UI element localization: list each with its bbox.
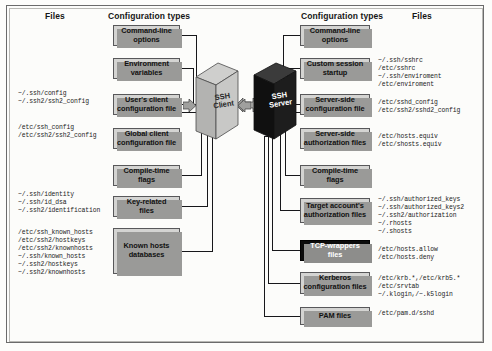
connector-server-5b (285, 175, 300, 176)
ssh-server-node[interactable]: SSH Server (246, 63, 298, 145)
client-config-compile-time-flags[interactable]: Compile-time flags (113, 165, 180, 186)
file-line: ~/.ssh/id_dsa (18, 199, 67, 206)
connector-server-7v (272, 128, 273, 250)
file-line: ~/.shosts (378, 228, 412, 235)
file-line: ~/.ssh2/identification (18, 207, 100, 214)
header-client-files: Files (45, 11, 65, 21)
server-config-custom-session-startup[interactable]: Custom session startup (300, 58, 370, 79)
file-line: /etc/ssh2/hostkeys (18, 237, 85, 244)
file-line: /etc/sshd_config (378, 99, 438, 106)
client-config-command-line-options-line2: options (133, 35, 159, 44)
file-line: ~/.ssh2/hostkeys (18, 261, 78, 268)
file-line: ~/.ssh2/knownhosts (18, 269, 85, 276)
server-config-tcp-wrappers-files-line2: files (328, 250, 343, 259)
file-line: ~/.ssh/identity (18, 191, 74, 198)
file-line: ~/.ssh2/authorization (378, 212, 456, 219)
server-files-server-side-authorization: /etc/hosts.equiv/etc/shosts.equiv (378, 133, 442, 149)
file-line: /etc/shosts.equiv (378, 141, 442, 148)
client-config-users-client-configuration-file[interactable]: User's client configuration file (113, 94, 180, 115)
file-line: /etc/hosts.allow (378, 246, 438, 253)
file-line: /etc/ssh2/ssh2_config (18, 132, 96, 139)
client-files-users-client-config: ~/.ssh/config~/.ssh2/ssh2_config (18, 90, 89, 106)
header-server-files: Files (412, 11, 432, 21)
file-line: ~/.ssh/authorized_keys (378, 196, 460, 203)
file-line: ~/.ssh/config (18, 90, 67, 97)
ssh-client-node[interactable]: SSH Client (196, 63, 246, 145)
client-config-key-related-files-line2: files (139, 206, 154, 215)
connector-server-9v (264, 136, 265, 316)
server-files-target-account-authorization: ~/.ssh/authorized_keys~/.ssh/authorized_… (378, 196, 464, 236)
file-line: /etc/ssh_known_hosts (18, 229, 93, 236)
server-files-server-side-config: /etc/sshd_config/etc/ssh2/sshd2_config (378, 99, 460, 115)
file-line: /etc/ssh_config (18, 124, 74, 131)
client-outgoing-arrow (183, 99, 196, 112)
connector-client-1 (180, 35, 197, 36)
connector-server-6b (280, 210, 300, 211)
server-config-server-side-authorization-files-line2: authorization files (304, 138, 366, 147)
file-line: /etc/srvtab (378, 283, 419, 290)
server-config-pam-files-line1: PAM files (319, 311, 351, 320)
file-line: /etc/ssh2/sshd2_config (378, 107, 460, 114)
connector-client-2 (180, 68, 194, 69)
header-server-configuration-types: Configuration types (301, 11, 383, 21)
connector-server-8v (268, 132, 269, 283)
client-config-users-client-configuration-file-line2: configuration file (117, 104, 176, 113)
server-files-custom-session-startup: ~/.ssh/sshrc/etc/sshrc~/.ssh/enviroment/… (378, 57, 442, 89)
file-line: ~/.ssh/enviroment (378, 73, 442, 80)
figure-canvas: Files Configuration types Configuration … (0, 0, 492, 351)
file-line: ~/.rhosts (378, 220, 412, 227)
connector-client-6 (180, 206, 208, 207)
header-client-configuration-types: Configuration types (108, 11, 190, 21)
server-files-pam: /etc/pam.d/sshd (378, 310, 434, 318)
file-line: /etc/sshrc (378, 65, 415, 72)
server-config-target-accounts-authorization-files[interactable]: Target account's authorization files (300, 198, 370, 223)
client-config-key-related-files[interactable]: Key-related files (113, 196, 180, 217)
server-config-command-line-options[interactable]: Command-line options (300, 25, 370, 46)
connector-client-7 (180, 251, 213, 252)
connector-server-7b (272, 250, 300, 251)
file-line: ~/.ssh/known_hosts (18, 253, 85, 260)
server-config-server-side-configuration-file[interactable]: Server-side configuration file (300, 94, 370, 115)
client-config-compile-time-flags-line2: flags (138, 175, 155, 184)
server-config-kerberos-configuration-files-line2: configuration files (303, 282, 366, 291)
server-config-custom-session-startup-line2: startup (323, 68, 348, 77)
connector-server-1 (283, 35, 300, 36)
connector-server-8b (268, 283, 300, 284)
client-config-global-client-configuration-file[interactable]: Global client configuration file (113, 128, 180, 149)
client-files-known-hosts: /etc/ssh_known_hosts/etc/ssh2/hostkeys/e… (18, 229, 93, 278)
file-line: /etc/ssh2/knownhosts (18, 245, 93, 252)
file-line: /etc/enviroment (378, 81, 434, 88)
client-config-known-hosts-databases[interactable]: Known hosts databases (113, 228, 180, 274)
server-files-kerberos: /etc/krb.*,/etc/krb5.*/etc/srvtab~/.klog… (378, 275, 460, 299)
server-config-target-accounts-authorization-files-line2: authorization files (304, 210, 366, 219)
file-line: ~/.ssh/authorized_keys2 (378, 204, 464, 211)
server-config-server-side-configuration-file-line2: configuration file (305, 104, 364, 113)
server-config-kerberos-configuration-files[interactable]: Kerberos configuration files (300, 272, 370, 294)
client-config-known-hosts-databases-line2: databases (129, 250, 165, 259)
client-config-environment-variables-line2: variables (131, 68, 163, 77)
file-line: /etc/krb.*,/etc/krb5.* (378, 275, 460, 282)
connector-client-5 (180, 175, 202, 176)
file-line: ~/.ssh/sshrc (378, 57, 423, 64)
client-config-environment-variables[interactable]: Environment variables (113, 58, 180, 79)
file-line: /etc/hosts.deny (378, 254, 434, 261)
file-line: /etc/hosts.equiv (378, 133, 438, 140)
server-config-command-line-options-line2: options (322, 35, 348, 44)
client-files-global-client-config: /etc/ssh_config/etc/ssh2/ssh2_config (18, 124, 96, 140)
server-config-server-side-authorization-files[interactable]: Server-side authorization files (300, 128, 370, 149)
file-line: ~/.ssh2/ssh2_config (18, 98, 89, 105)
server-config-compile-time-flags-line2: flags (327, 175, 344, 184)
server-config-compile-time-flags[interactable]: Compile-time flags (300, 165, 370, 186)
server-config-pam-files[interactable]: PAM files (300, 307, 370, 325)
connector-server-9b (264, 316, 300, 317)
server-files-tcp-wrappers: /etc/hosts.allow/etc/hosts.deny (378, 246, 438, 262)
file-line: /etc/pam.d/sshd (378, 310, 434, 317)
file-line: ~/.klogin,/~.k5login (378, 291, 453, 298)
client-files-key-related: ~/.ssh/identity~/.ssh/id_dsa~/.ssh2/iden… (18, 191, 100, 215)
server-config-tcp-wrappers-files[interactable]: TCP-wrappers files (300, 240, 370, 261)
client-config-command-line-options[interactable]: Command-line options (113, 25, 180, 46)
client-config-global-client-configuration-file-line2: configuration file (117, 138, 176, 147)
